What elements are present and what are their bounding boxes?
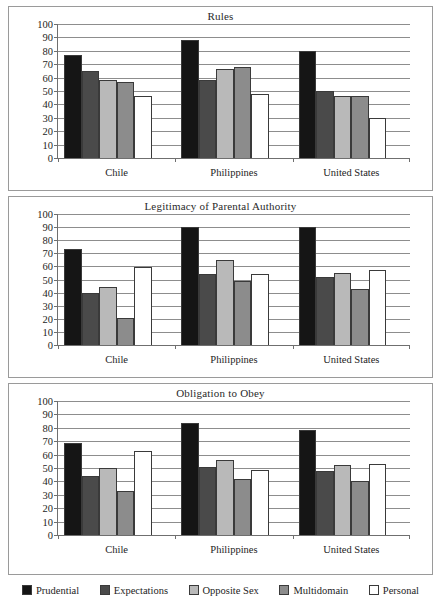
bar	[134, 451, 152, 535]
legend-label: Multidomain	[293, 585, 348, 596]
bar	[299, 430, 317, 535]
legend-item[interactable]: Opposite Sex	[189, 585, 259, 596]
legend-label: Personal	[383, 585, 419, 596]
y-axis-tick-label: 10	[43, 326, 54, 337]
bar	[251, 94, 269, 158]
y-axis-tick-label: 90	[43, 409, 54, 420]
chart-panel-legitimacy: Legitimacy of Parental Authority 0102030…	[8, 196, 433, 378]
legend-swatch-icon	[189, 585, 199, 595]
x-axis-tick-mark	[293, 535, 294, 539]
y-axis-tick-label: 40	[43, 99, 54, 110]
y-axis-tick-label: 70	[43, 436, 54, 447]
chart-title: Obligation to Obey	[9, 387, 432, 399]
x-axis-tick-mark	[58, 535, 59, 539]
y-axis-tick-label: 80	[43, 422, 54, 433]
x-axis-tick-label: Chile	[58, 167, 175, 178]
bar-group: Chile	[58, 214, 175, 345]
x-axis-tick-mark	[293, 345, 294, 349]
y-axis-tick-label: 30	[43, 112, 54, 123]
bar	[117, 318, 135, 345]
bar	[64, 55, 82, 158]
x-axis-tick-label: Philippines	[175, 167, 292, 178]
y-axis-tick-label: 80	[43, 45, 54, 56]
bar	[64, 249, 82, 345]
bar	[334, 96, 352, 158]
chart-title: Legitimacy of Parental Authority	[9, 200, 432, 212]
y-axis-tick-label: 30	[43, 489, 54, 500]
bar	[234, 479, 252, 535]
bar-group: Philippines	[175, 24, 292, 158]
bar	[316, 91, 334, 158]
bar-group: United States	[293, 24, 410, 158]
bar	[99, 287, 117, 345]
bar	[99, 80, 117, 158]
bar	[334, 273, 352, 345]
legend-label: Expectations	[114, 585, 168, 596]
legend-swatch-icon	[22, 585, 32, 595]
x-axis-tick-mark	[175, 345, 176, 349]
bar	[82, 71, 100, 158]
bar-group: Philippines	[175, 214, 292, 345]
chart-title: Rules	[9, 10, 432, 22]
x-axis-tick-mark	[58, 158, 59, 162]
bar	[299, 51, 317, 158]
y-axis-tick-label: 10	[43, 139, 54, 150]
bar	[234, 281, 252, 345]
bar	[199, 80, 217, 158]
y-axis-tick-label: 100	[37, 19, 53, 30]
x-axis-tick-mark	[58, 345, 59, 349]
y-axis-tick-label: 70	[43, 248, 54, 259]
y-axis-tick-label: 20	[43, 313, 54, 324]
y-axis-tick-label: 100	[37, 396, 53, 407]
bar	[299, 227, 317, 345]
bar	[134, 96, 152, 158]
x-axis-tick-label: Chile	[58, 544, 175, 555]
bar	[351, 289, 369, 345]
y-axis-tick-label: 30	[43, 300, 54, 311]
bar	[251, 470, 269, 535]
legend-item[interactable]: Personal	[369, 585, 419, 596]
y-axis-tick-label: 20	[43, 503, 54, 514]
y-axis-tick-label: 60	[43, 449, 54, 460]
bar	[351, 481, 369, 535]
bar	[369, 270, 387, 345]
y-axis-tick-label: 70	[43, 59, 54, 70]
bar-groups: ChilePhilippinesUnited States	[58, 214, 410, 345]
legend: PrudentialExpectationsOpposite SexMultid…	[8, 580, 433, 600]
bar-group: Chile	[58, 401, 175, 535]
figure-root: Rules 0102030405060708090100ChilePhilipp…	[0, 0, 441, 607]
legend-swatch-icon	[279, 585, 289, 595]
bar-group: United States	[293, 401, 410, 535]
bar	[369, 464, 387, 535]
bar	[134, 267, 152, 345]
bar	[181, 227, 199, 345]
legend-item[interactable]: Prudential	[22, 585, 79, 596]
legend-item[interactable]: Multidomain	[279, 585, 348, 596]
bar-groups: ChilePhilippinesUnited States	[58, 401, 410, 535]
bar	[216, 260, 234, 345]
bar-group: Philippines	[175, 401, 292, 535]
bar	[369, 118, 387, 158]
bar	[316, 277, 334, 345]
bar	[216, 460, 234, 535]
legend-label: Opposite Sex	[203, 585, 259, 596]
y-axis-tick-label: 60	[43, 261, 54, 272]
plot-area-2: 0102030405060708090100ChilePhilippinesUn…	[57, 401, 410, 536]
legend-item[interactable]: Expectations	[100, 585, 168, 596]
bar	[99, 468, 117, 535]
y-axis-tick-label: 20	[43, 126, 54, 137]
bar	[117, 491, 135, 535]
bar	[199, 274, 217, 345]
plot-area-0: 0102030405060708090100ChilePhilippinesUn…	[57, 24, 410, 159]
y-axis-tick-label: 50	[43, 86, 54, 97]
chart-panel-rules: Rules 0102030405060708090100ChilePhilipp…	[8, 6, 433, 191]
y-axis-tick-label: 50	[43, 463, 54, 474]
x-axis-end-tick	[409, 535, 410, 539]
y-axis-tick-label: 0	[48, 340, 53, 351]
bar	[181, 40, 199, 158]
bar	[334, 465, 352, 535]
x-axis-tick-mark	[293, 158, 294, 162]
x-axis-end-tick	[409, 158, 410, 162]
x-axis-tick-label: United States	[293, 167, 410, 178]
bar	[64, 443, 82, 535]
